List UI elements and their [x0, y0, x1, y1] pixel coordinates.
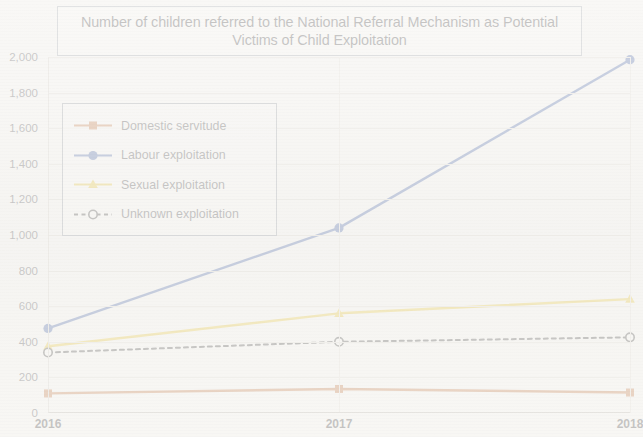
legend-swatch-icon — [73, 149, 113, 162]
x-axis-tick-label: 2016 — [35, 417, 62, 431]
y-axis-tick-label: 600 — [19, 300, 38, 312]
x-axis-tick-label: 2018 — [617, 417, 643, 431]
chart-title-box: Number of children referred to the Natio… — [57, 6, 582, 56]
y-axis-tick-label: 400 — [19, 336, 38, 348]
chart-legend: Domestic servitudeLabour exploitationSex… — [62, 103, 277, 236]
legend-item-label: Labour exploitation — [121, 148, 226, 162]
legend-item-label: Sexual exploitation — [121, 178, 225, 192]
y-axis-tick-label: 1,200 — [9, 193, 38, 205]
legend-item-unknown-exploitation[interactable]: Unknown exploitation — [73, 207, 268, 221]
legend-swatch-icon — [73, 119, 113, 132]
legend-swatch-icon — [73, 208, 113, 221]
category-gridline — [630, 57, 631, 413]
chart-root: Number of children referred to the Natio… — [0, 0, 643, 437]
y-axis-tick-label: 200 — [19, 371, 38, 383]
y-axis-tick-label: 1,000 — [9, 229, 38, 241]
legend-item-label: Domestic servitude — [121, 119, 226, 133]
x-axis: 201620172018 — [0, 415, 643, 437]
y-axis-tick-label: 2,000 — [9, 51, 38, 63]
legend-swatch-icon — [73, 178, 113, 191]
legend-item-label: Unknown exploitation — [121, 207, 239, 221]
y-axis-tick-label: 1,400 — [9, 158, 38, 170]
y-axis-tick-label: 1,800 — [9, 87, 38, 99]
legend-item-labour-exploitation[interactable]: Labour exploitation — [73, 148, 268, 162]
page-title: Number of children referred to the Natio… — [66, 13, 573, 50]
y-axis-tick-label: 1,600 — [9, 122, 38, 134]
legend-item-sexual-exploitation[interactable]: Sexual exploitation — [73, 178, 268, 192]
legend-item-domestic-servitude[interactable]: Domestic servitude — [73, 119, 268, 133]
y-axis-tick-label: 800 — [19, 265, 38, 277]
x-axis-tick-label: 2017 — [326, 417, 353, 431]
y-axis: 02004006008001,0001,2001,4001,6001,8002,… — [0, 57, 44, 413]
